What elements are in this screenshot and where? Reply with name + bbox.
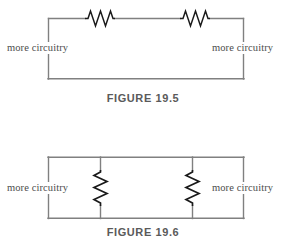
parallel-circuit-diagram <box>0 122 286 224</box>
label-more-circuitry-left: more circuitry <box>6 42 69 54</box>
label-more-circuitry-right: more circuitry <box>211 182 274 194</box>
figure-caption-19-6: FIGURE 19.6 <box>0 226 286 238</box>
label-more-circuitry-right: more circuitry <box>211 42 274 54</box>
figure-caption-19-5: FIGURE 19.5 <box>0 92 286 104</box>
resistor-icon-1 <box>85 11 115 26</box>
resistor-icon-2 <box>186 170 199 206</box>
figures-page: { "page": { "background_color": "#ffffff… <box>0 0 286 246</box>
figure-19-5: more circuitry more circuitry FIGURE 19.… <box>0 0 286 112</box>
figure-19-6: more circuitry more circuitry FIGURE 19.… <box>0 122 286 246</box>
resistor-icon-2 <box>180 11 210 26</box>
label-more-circuitry-left: more circuitry <box>6 182 69 194</box>
resistor-icon-1 <box>94 170 107 206</box>
